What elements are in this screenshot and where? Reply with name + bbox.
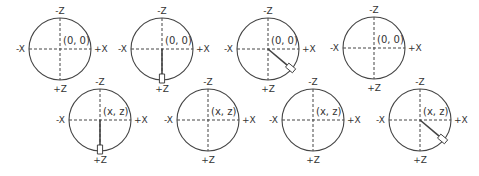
dial-1: -Z+Z-X+X(0, 0) [16,6,108,94]
neg-z-label: -Z [157,6,166,16]
neg-z-label: -Z [203,77,212,87]
neg-x-label: -X [56,115,65,125]
pos-x-label: +X [347,115,361,125]
pointer-needle [159,49,164,83]
neg-z-label: -Z [415,77,424,87]
pos-x-label: +X [408,43,422,53]
neg-z-label: -Z [95,77,104,87]
center-coordinate-label: (0, 0) [63,35,90,46]
neg-z-label: -Z [369,5,378,15]
pos-z-label: +Z [261,84,275,94]
dial-2: -Z+Z-X+X(0, 0) [118,6,210,94]
pointer-tip [159,74,164,83]
pos-x-label: +X [94,44,108,54]
neg-z-label: -Z [308,77,317,87]
neg-x-label: -X [330,43,339,53]
pos-z-label: +Z [367,83,381,93]
neg-x-label: -X [224,44,233,54]
neg-z-label: -Z [55,6,64,16]
pos-z-label: +Z [201,155,215,165]
pos-x-label: +X [134,115,148,125]
dial-7: -Z+Z-X+X(x, z) [269,77,361,165]
pos-x-label: +X [196,44,210,54]
pos-x-label: +X [242,115,256,125]
pointer-needle [420,120,448,144]
center-coordinate-label: (0, 0) [377,34,404,45]
neg-x-label: -X [16,44,25,54]
center-coordinate-label: (0, 0) [271,35,298,46]
pointer-tip [286,63,296,73]
pointer-tip [97,145,102,154]
center-coordinate-label: (x, z) [103,106,128,117]
center-coordinate-label: (x, z) [211,106,236,117]
neg-x-label: -X [118,44,127,54]
neg-x-label: -X [376,115,385,125]
neg-z-label: -Z [263,6,272,16]
center-coordinate-label: (x, z) [423,106,448,117]
dial-4: -Z+Z-X+X(0, 0) [330,5,422,93]
pos-x-label: +X [302,44,316,54]
pointer-tip [438,134,448,144]
pointer-needle [97,120,102,154]
dial-5: -Z+Z-X+X(x, z) [56,77,148,165]
dial-6: -Z+Z-X+X(x, z) [164,77,256,165]
pos-z-label: +Z [413,155,427,165]
pos-z-label: +Z [53,84,67,94]
neg-x-label: -X [269,115,278,125]
pos-z-label: +Z [155,84,169,94]
pos-z-label: +Z [93,155,107,165]
pointer-needle [268,49,296,73]
center-coordinate-label: (x, z) [316,106,341,117]
center-coordinate-label: (0, 0) [165,35,192,46]
pos-x-label: +X [454,115,468,125]
neg-x-label: -X [164,115,173,125]
pos-z-label: +Z [306,155,320,165]
dial-3: -Z+Z-X+X(0, 0) [224,6,316,94]
dial-8: -Z+Z-X+X(x, z) [376,77,468,165]
dial-diagram: -Z+Z-X+X(0, 0)-Z+Z-X+X(0, 0)-Z+Z-X+X(0, … [0,0,479,176]
